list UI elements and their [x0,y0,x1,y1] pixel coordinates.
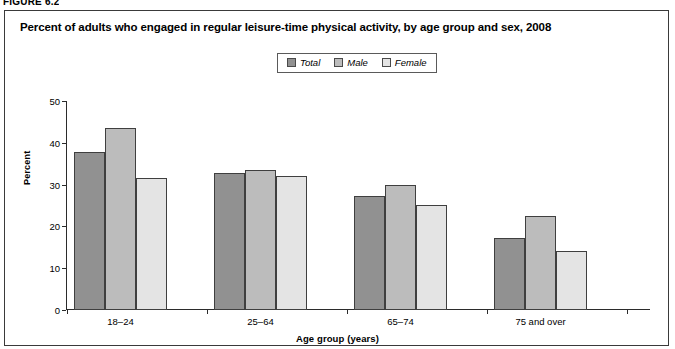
x-axis-title: Age group (years) [0,333,675,344]
figure-number-label: FIGURE 6.2 [3,0,59,5]
legend-item-female: Female [382,58,427,68]
x-axis-tick-label: 18–24 [107,316,133,327]
bar-group [74,101,167,310]
chart-legend: TotalMaleFemale [277,53,437,73]
bar-total [74,152,105,310]
bar-female [276,176,307,310]
x-axis-tick-label: 75 and over [515,316,565,327]
legend-label: Male [347,58,368,68]
bar-total [494,238,525,310]
x-axis-tick-label: 25–64 [247,316,273,327]
y-axis-title: Percent [22,151,32,185]
legend-swatch-male-icon [334,58,343,67]
page-title: Percent of adults who engaged in regular… [20,21,551,33]
legend-item-male: Male [334,58,368,68]
bar-male [245,170,276,310]
y-axis-line [66,101,67,310]
bar-female [416,205,447,310]
bar-group [494,101,587,310]
x-axis-tick-mark [207,310,208,314]
legend-item-total: Total [287,58,320,68]
bar-group [354,101,447,310]
x-axis-tick-label: 65–74 [387,316,413,327]
y-axis-tick-mark [62,310,66,311]
bar-male [105,128,136,310]
figure-root: FIGURE 6.2 Percent of adults who engaged… [0,0,675,349]
bar-male [385,185,416,310]
y-axis-tick-mark [62,101,66,102]
x-axis-tick-mark [347,310,348,314]
bar-total [214,173,245,310]
x-axis-tick-mark [487,310,488,314]
bar-female [556,251,587,310]
bar-group [214,101,307,310]
bar-total [354,196,385,310]
bar-female [136,178,167,310]
y-axis-tick-mark [62,226,66,227]
legend-swatch-total-icon [287,58,296,67]
legend-swatch-female-icon [382,58,391,67]
legend-label: Total [300,58,320,68]
y-axis-tick-mark [62,143,66,144]
plot-area: 0102030405018–2425–6465–7475 and over [66,101,650,310]
x-axis-tick-mark [67,310,68,314]
y-axis-tick-mark [62,268,66,269]
bar-male [525,216,556,310]
legend-label: Female [395,58,427,68]
x-axis-tick-mark [627,310,628,314]
y-axis-tick-mark [62,185,66,186]
